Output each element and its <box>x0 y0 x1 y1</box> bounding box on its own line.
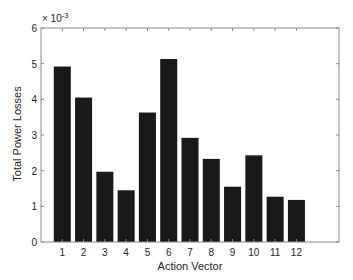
bar-6 <box>160 59 177 242</box>
y-tick-label: 4 <box>31 94 37 105</box>
x-tick-label: 12 <box>291 247 303 258</box>
bar-11 <box>267 197 284 242</box>
x-tick-label: 3 <box>102 247 108 258</box>
bar-7 <box>181 138 198 242</box>
x-tick-label: 6 <box>166 247 172 258</box>
x-tick-label: 4 <box>123 247 129 258</box>
bar-5 <box>139 113 156 242</box>
bar-9 <box>224 187 241 242</box>
bar-2 <box>75 98 92 242</box>
x-tick-label: 7 <box>187 247 193 258</box>
y-tick-label: 3 <box>31 130 37 141</box>
bar-8 <box>203 159 220 242</box>
y-tick-label: 0 <box>31 237 37 248</box>
exponent-base: × 10 <box>42 13 62 24</box>
bar-10 <box>245 155 262 242</box>
y-tick-label: 5 <box>31 59 37 70</box>
y-tick-label: 2 <box>31 166 37 177</box>
x-tick-labels: 123456789101112 <box>60 247 303 258</box>
y-axis-label: Total Power Losses <box>11 86 23 182</box>
y-exponent-label: × 10-3 <box>42 11 68 24</box>
x-tick-label: 11 <box>270 247 281 258</box>
bar-3 <box>96 172 113 242</box>
x-tick-label: 10 <box>248 247 260 258</box>
y-tick-label: 1 <box>31 201 37 212</box>
bar-series <box>54 59 305 242</box>
x-tick-label: 1 <box>60 247 66 258</box>
exponent-power: -3 <box>62 11 69 20</box>
y-tick-label: 6 <box>31 23 37 34</box>
x-tick-label: 9 <box>230 247 236 258</box>
bar-4 <box>118 190 135 242</box>
x-tick-label: 5 <box>145 247 151 258</box>
bar-1 <box>54 67 71 242</box>
y-tick-labels: 0123456 <box>31 23 37 248</box>
x-axis-label: Action Vector <box>158 260 223 272</box>
x-tick-label: 2 <box>81 247 87 258</box>
x-tick-label: 8 <box>209 247 215 258</box>
bar-12 <box>288 200 305 242</box>
bar-chart: 123456789101112 0123456 Action Vector To… <box>0 0 353 280</box>
